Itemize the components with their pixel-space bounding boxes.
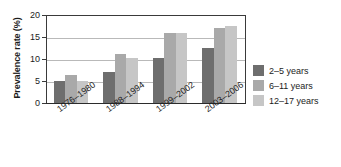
legend-swatch-icon [253, 80, 264, 91]
legend-item: 6–11 years [253, 78, 319, 93]
legend-item: 12–17 years [253, 93, 319, 108]
legend-item: 2–5 years [253, 63, 319, 78]
bar [202, 48, 214, 103]
bar [153, 58, 165, 103]
bar-chart-figure: Prevalence rate (%) 05101520 1976–198019… [0, 0, 341, 167]
y-axis-tick-label: 20 [20, 10, 40, 20]
legend: 2–5 years6–11 years12–17 years [253, 63, 319, 108]
legend-label: 12–17 years [269, 96, 319, 106]
y-axis-tick-label: 10 [20, 54, 40, 64]
y-axis-tick-label: 0 [20, 98, 40, 108]
legend-label: 2–5 years [269, 66, 309, 76]
y-axis-tick-label: 15 [20, 32, 40, 42]
legend-swatch-icon [253, 65, 264, 76]
legend-swatch-icon [253, 95, 264, 106]
legend-label: 6–11 years [269, 81, 313, 91]
y-axis-tick-label: 5 [20, 76, 40, 86]
